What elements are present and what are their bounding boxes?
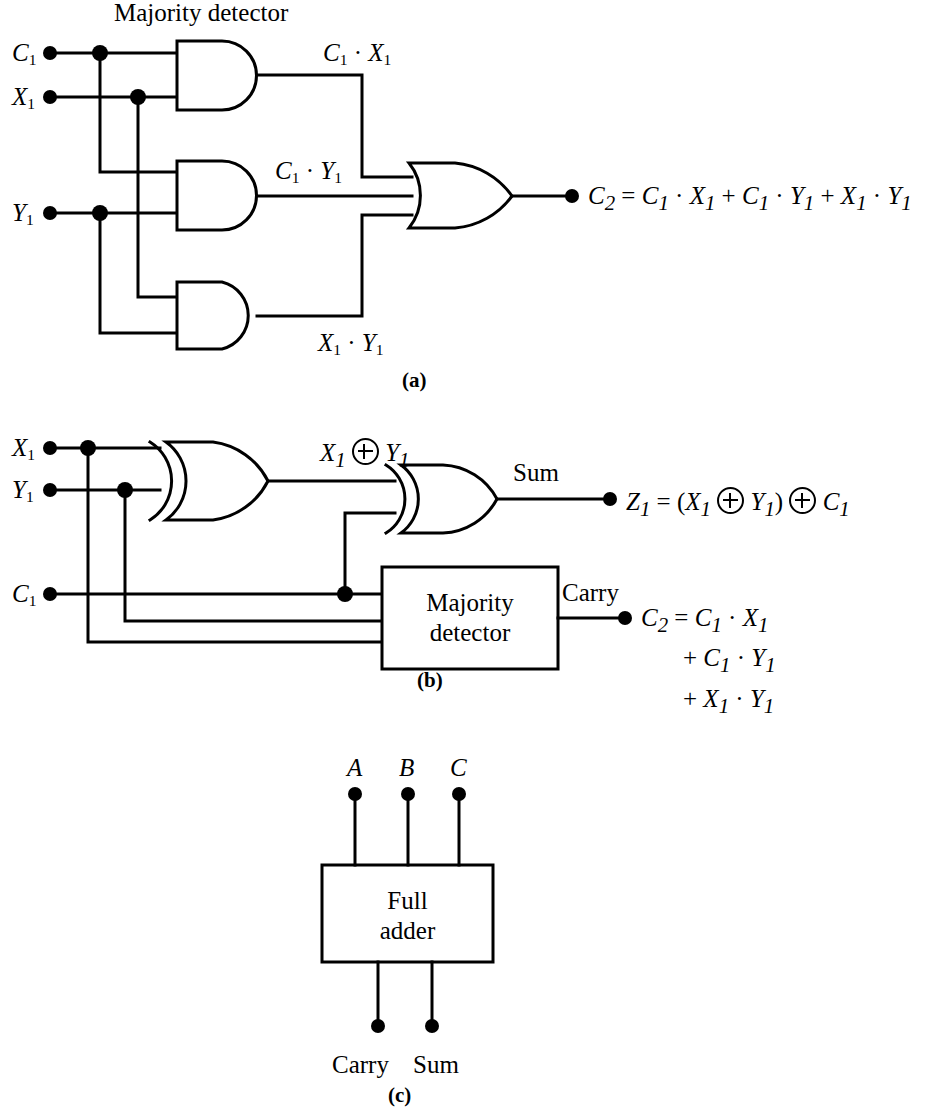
input-label-y1-a: Y1 <box>12 200 34 228</box>
wire-x1-branch-to-and3 <box>138 97 177 297</box>
figure-page: Majority detector C1 X1 Y1 C1 · X1 C1 · … <box>0 0 929 1111</box>
xor-plus-icon-1 <box>352 438 379 465</box>
or-gate-1 <box>409 163 512 228</box>
junction-dot-c1-a <box>92 45 108 61</box>
output-terminal-c2-a <box>565 189 579 203</box>
full-adder-line2: adder <box>322 916 493 946</box>
wire-label-and1-a: C1 · X1 <box>323 40 391 68</box>
and-gate-1 <box>177 41 256 110</box>
carry-equation-line1: C2 = C1 · X1 <box>641 605 768 636</box>
input-label-x1-b: X1 <box>12 435 35 463</box>
wire-label-and2-a: C1 · Y1 <box>275 158 342 186</box>
input-label-x1-a: X1 <box>12 84 35 112</box>
wire-and3-to-or <box>257 215 412 316</box>
xor-gate-2 <box>401 465 497 533</box>
full-adder-line1: Full <box>322 886 493 916</box>
sum-equation-b: Z1 = (X1 Y1) C1 <box>626 487 850 520</box>
output-equation-a: C2 = C1 · X1 + C1 · Y1 + X1 · Y1 <box>588 183 912 214</box>
and-gate-3 <box>177 282 248 349</box>
output-label-carry-c: Carry <box>332 1052 389 1077</box>
carry-wire-label: Carry <box>562 580 619 605</box>
part-a-heading: Majority detector <box>114 0 288 25</box>
majority-detector-line2: detector <box>382 618 558 648</box>
xor-gate-1-back-arc <box>150 442 172 520</box>
carry-equation-line3: + X1 · Y1 <box>683 686 774 717</box>
input-label-c1-a-sub: 1 <box>29 51 37 68</box>
xor-plus-icon-2 <box>717 487 744 514</box>
wire-label-and3-a: X1 · Y1 <box>318 330 384 358</box>
junction-dot-y1-a <box>92 205 108 221</box>
input-label-c1-a: C1 <box>12 40 36 68</box>
and-gate-2 <box>177 161 257 230</box>
part-a-label: (a) <box>402 370 427 391</box>
input-label-y1-b: Y1 <box>12 477 34 505</box>
input-label-b-c: B <box>399 755 414 780</box>
xor-plus-icon-3 <box>789 487 816 514</box>
input-terminal-c-c <box>452 787 466 801</box>
output-terminal-z1 <box>603 492 617 506</box>
majority-detector-label: Majority detector <box>382 588 558 647</box>
input-label-a-c: A <box>347 755 362 780</box>
output-terminal-carry-c <box>371 1019 385 1033</box>
input-terminal-a-c <box>348 787 362 801</box>
wire-label-xor1-b: X1 Y1 <box>320 438 410 471</box>
input-label-c-c: C <box>450 755 467 780</box>
output-terminal-sum-c <box>425 1019 439 1033</box>
output-label-sum-c: Sum <box>413 1052 459 1077</box>
sum-wire-label: Sum <box>513 460 559 485</box>
majority-detector-line1: Majority <box>382 588 558 618</box>
full-adder-label: Full adder <box>322 886 493 945</box>
junction-dot-x1-a <box>130 89 146 105</box>
xor-gate-2-back-arc <box>386 465 405 533</box>
output-terminal-c2-b <box>618 611 632 625</box>
xor-gate-1 <box>166 442 268 520</box>
part-c-label: (c) <box>388 1085 411 1106</box>
input-terminal-b-c <box>401 787 415 801</box>
input-label-y1-a-sub: 1 <box>26 211 34 228</box>
junction-dot-x1-b <box>80 440 96 456</box>
junction-dot-y1-b <box>117 482 133 498</box>
carry-equation-line2: + C1 · Y1 <box>683 645 776 676</box>
input-label-x1-a-sub: 1 <box>27 95 35 112</box>
part-b-label: (b) <box>417 670 443 691</box>
input-label-c1-b: C1 <box>12 581 36 609</box>
